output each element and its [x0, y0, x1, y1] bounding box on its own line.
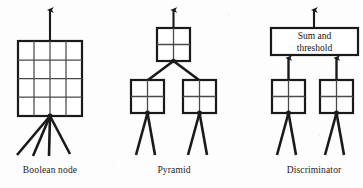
panel-pyramid: [131, 10, 216, 155]
discriminator-right-node: [320, 80, 353, 113]
pyramid-left-inputs: [136, 111, 155, 155]
caption-boolean-node: Boolean node: [2, 165, 98, 175]
pyramid-top-node: [157, 28, 190, 61]
pyramid-branch-lines: [148, 59, 199, 80]
pyramid-bottom-left-node: [131, 80, 164, 113]
boolean-node-inputs: [17, 113, 70, 156]
network-architecture-figure: [0, 0, 363, 188]
pyramid-bottom-right-node: [183, 80, 216, 113]
sum-and-threshold-line1: Sum and: [271, 31, 358, 43]
caption-discriminator: Discriminator: [266, 165, 362, 175]
discriminator-left-node: [272, 80, 305, 113]
caption-pyramid: Pyramid: [128, 165, 220, 175]
sum-and-threshold-line2: threshold: [271, 43, 358, 55]
pyramid-right-inputs: [188, 111, 207, 155]
sum-and-threshold-label: Sum and threshold: [271, 31, 358, 54]
discriminator-right-inputs: [325, 111, 344, 155]
panel-boolean-node: [17, 10, 82, 156]
discriminator-left-inputs: [277, 111, 296, 155]
boolean-node-grid: [18, 41, 82, 116]
